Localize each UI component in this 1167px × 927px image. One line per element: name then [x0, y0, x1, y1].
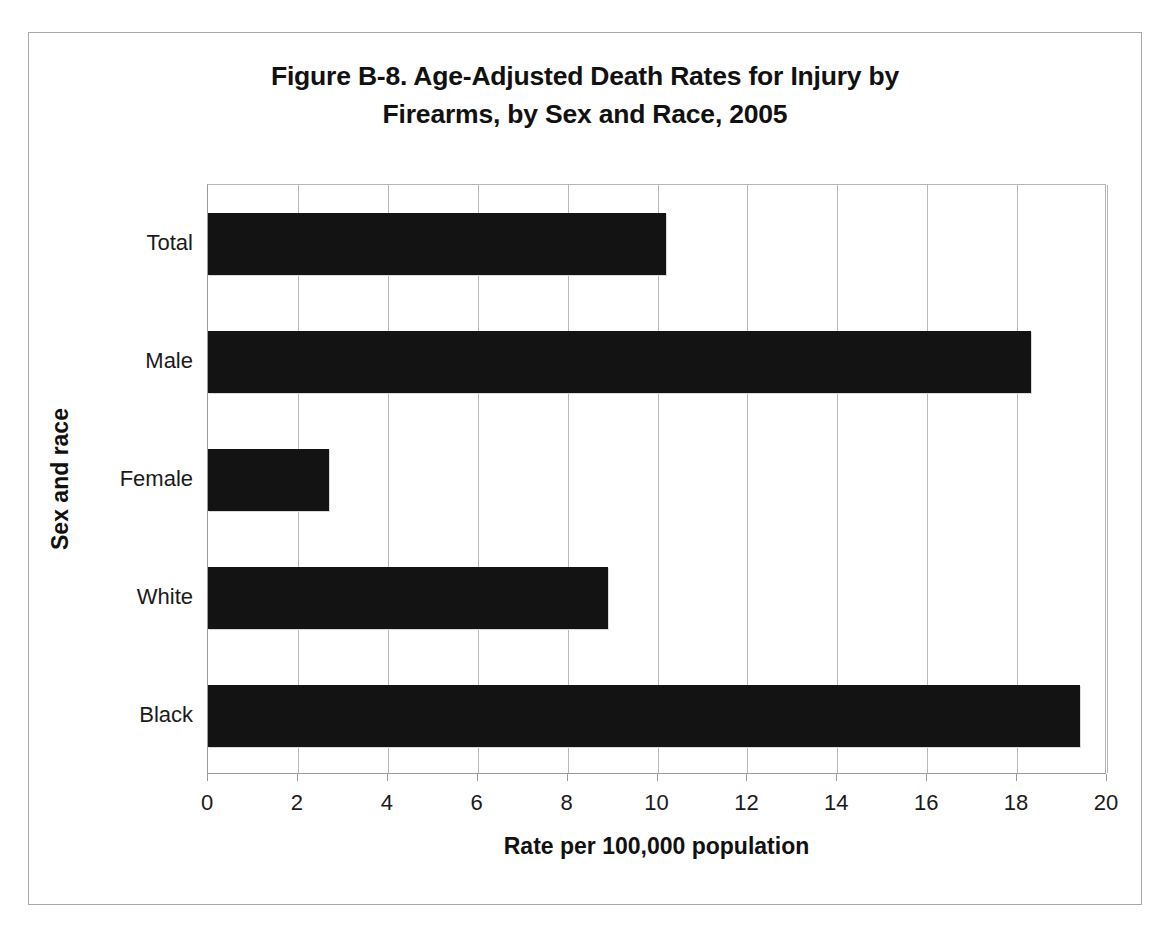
chart-title-line-2: Firearms, by Sex and Race, 2005 [29, 96, 1141, 134]
x-tick-mark [1016, 774, 1017, 781]
x-tick-label: 2 [291, 790, 303, 816]
x-tick-mark [567, 774, 568, 781]
x-tick-label: 0 [201, 790, 213, 816]
x-tick-mark [926, 774, 927, 781]
x-tick-label: 20 [1094, 790, 1118, 816]
x-tick-mark [746, 774, 747, 781]
bar-slot [208, 303, 1105, 421]
bar [208, 331, 1031, 393]
bar-slot [208, 185, 1105, 303]
bar [208, 213, 666, 275]
x-tick-mark [477, 774, 478, 781]
x-axis-ticks: 02468101214161820 [207, 774, 1106, 834]
x-tick-label: 6 [471, 790, 483, 816]
x-axis-title: Rate per 100,000 population [207, 833, 1106, 860]
x-tick-label: 10 [644, 790, 668, 816]
bar [208, 567, 608, 629]
chart-title: Figure B-8. Age-Adjusted Death Rates for… [29, 58, 1141, 133]
x-tick-mark [836, 774, 837, 781]
x-tick-label: 16 [914, 790, 938, 816]
x-tick-mark [657, 774, 658, 781]
x-tick-label: 12 [734, 790, 758, 816]
bar-slot [208, 539, 1105, 657]
figure-frame: Figure B-8. Age-Adjusted Death Rates for… [28, 32, 1142, 905]
x-tick-mark [1106, 774, 1107, 781]
bar-slot [208, 657, 1105, 775]
bar [208, 685, 1080, 747]
x-tick-label: 4 [381, 790, 393, 816]
bar [208, 449, 329, 511]
x-tick-mark [207, 774, 208, 781]
x-tick-label: 8 [560, 790, 572, 816]
chart-title-line-1: Figure B-8. Age-Adjusted Death Rates for… [29, 58, 1141, 96]
x-tick-mark [387, 774, 388, 781]
y-axis-title: Sex and race [47, 184, 77, 774]
x-tick-mark [297, 774, 298, 781]
bars-group [208, 185, 1105, 773]
bar-slot [208, 421, 1105, 539]
gridline-20 [1107, 185, 1108, 773]
plot-area [207, 184, 1106, 774]
x-tick-label: 14 [824, 790, 848, 816]
x-tick-label: 18 [1004, 790, 1028, 816]
